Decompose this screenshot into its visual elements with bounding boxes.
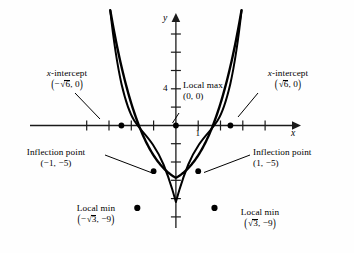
- annotation-local-min-right: Local min (√3, −9): [216, 207, 304, 229]
- annotation-local-max: Local max (0, 0): [183, 80, 253, 102]
- local-min-left-title: Local min: [52, 203, 140, 214]
- local-min-right-suffix: , −9: [258, 218, 273, 228]
- local-min-left-suffix: , −9: [97, 214, 112, 224]
- point-inflection-right: [195, 168, 201, 174]
- annotation-x-intercept-right: x-intercept (√6, 0): [245, 68, 331, 90]
- y-tick-label-4: 4: [163, 83, 168, 93]
- local-min-left-point: (−√3, −9): [52, 214, 140, 225]
- point-x-intercept-right: [228, 123, 234, 129]
- local-min-right-title: Local min: [216, 207, 304, 218]
- inflection-right-title: Inflection point: [253, 147, 353, 158]
- annotation-inflection-left: Inflection point (−1, −5): [6, 147, 106, 169]
- x-intercept-right-point: (√6, 0): [245, 79, 331, 90]
- x-intercept-right-suffix: , 0: [289, 79, 299, 89]
- sqrt-glyph-right-6: √6: [278, 79, 289, 90]
- x-intercept-left-suffix: , 0: [70, 79, 80, 89]
- local-max-point: (0, 0): [183, 91, 253, 102]
- annotation-x-intercept-left: x-intercept (−√6, 0): [24, 68, 110, 90]
- x-intercept-left-point: (−√6, 0): [24, 79, 110, 90]
- annotation-inflection-right: Inflection point (1, −5): [253, 147, 353, 169]
- annotation-local-min-left: Local min (−√3, −9): [52, 203, 140, 225]
- leader-x-intercept-left: [75, 93, 100, 119]
- leader-inflection-left: [105, 155, 151, 173]
- y-axis-label: y: [163, 12, 167, 23]
- sqrt-glyph-left-3: √3: [86, 214, 97, 225]
- y-axis: [171, 13, 181, 228]
- point-x-intercept-left: [119, 123, 125, 129]
- inflection-right-point: (1, −5): [253, 158, 353, 169]
- point-local-max: [173, 123, 179, 129]
- point-inflection-left: [151, 168, 157, 174]
- inflection-left-point: (−1, −5): [6, 158, 106, 169]
- x-axis-label: x: [291, 127, 295, 138]
- sqrt-glyph-left-6: √6: [60, 79, 71, 90]
- graph-figure: y x 4 1 x-intercept (−√6, 0) x-intercept…: [0, 0, 354, 253]
- local-max-title: Local max: [183, 80, 253, 91]
- x-tick-label-1: 1: [196, 128, 201, 138]
- x-intercept-left-title: x-intercept: [24, 68, 110, 79]
- sqrt-glyph-right-3: √3: [247, 218, 258, 229]
- local-min-right-point: (√3, −9): [216, 218, 304, 229]
- leader-inflection-right: [204, 155, 250, 173]
- inflection-left-title: Inflection point: [6, 147, 106, 158]
- x-intercept-right-title: x-intercept: [245, 68, 331, 79]
